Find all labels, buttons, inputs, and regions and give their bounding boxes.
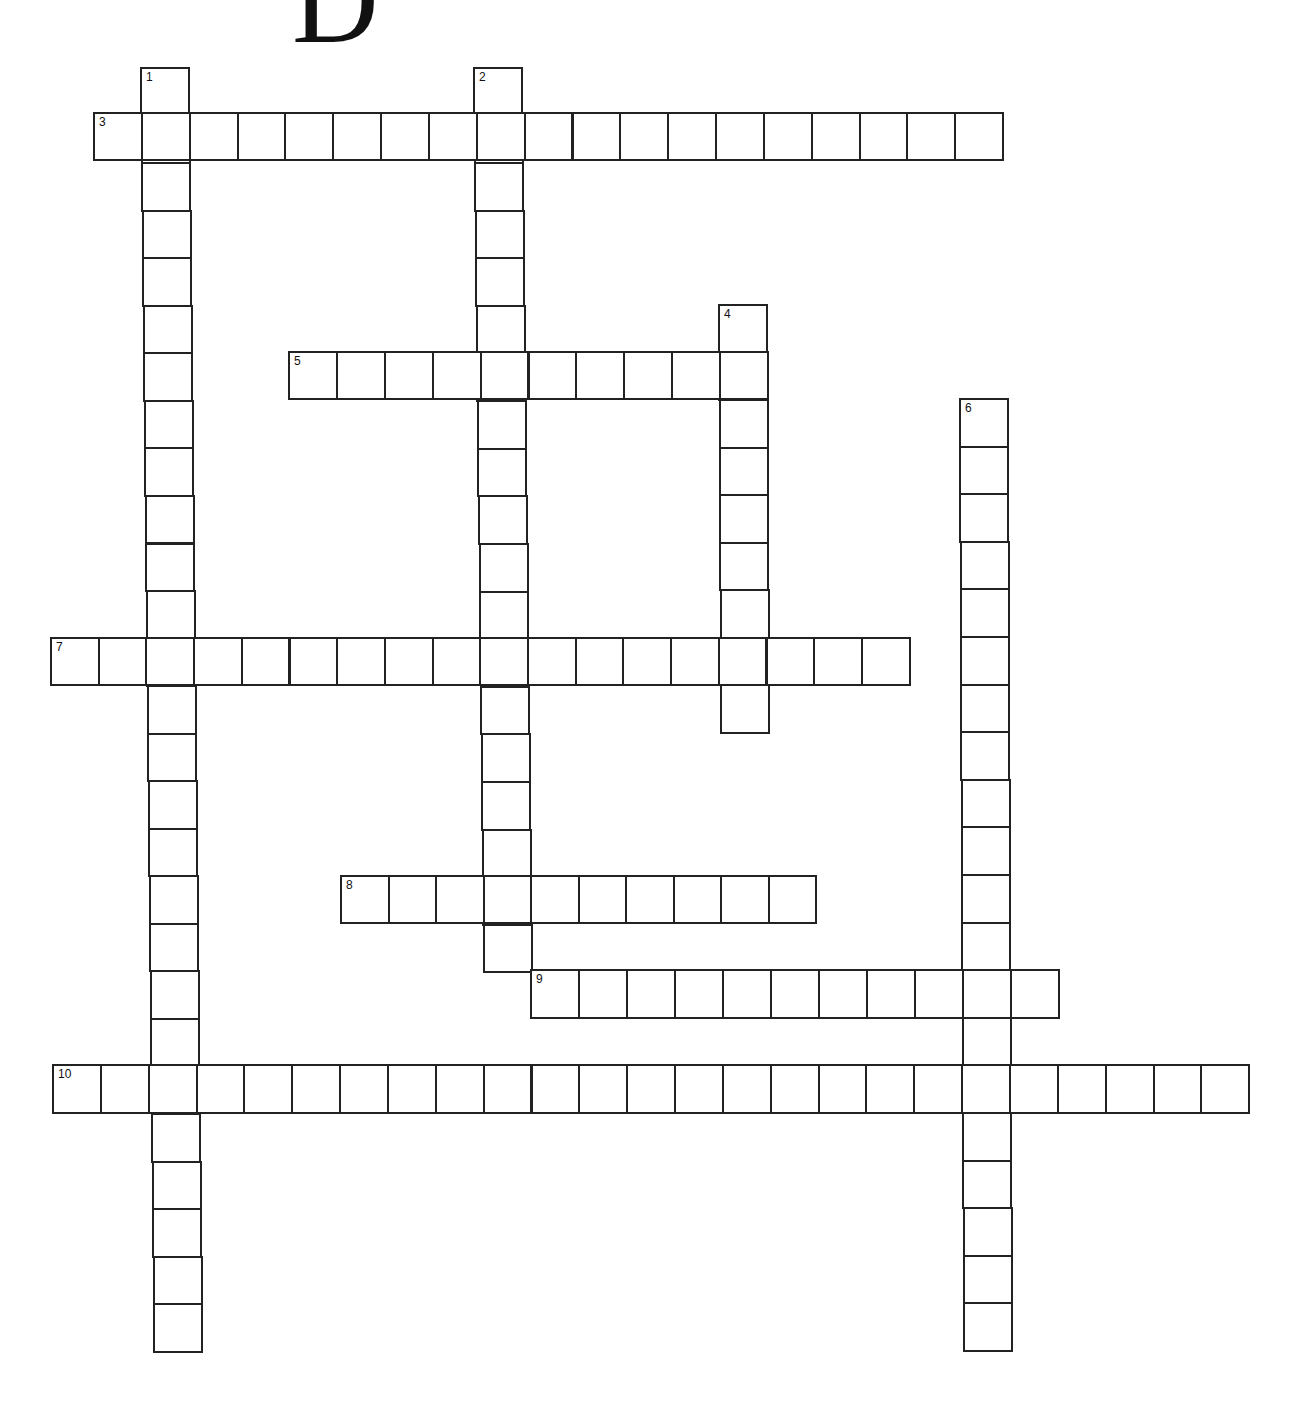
crossword-cell[interactable]	[1200, 1064, 1250, 1114]
crossword-cell[interactable]	[100, 1064, 150, 1114]
crossword-cell[interactable]	[481, 733, 531, 783]
crossword-cell[interactable]	[914, 969, 964, 1019]
crossword-cell[interactable]: 9	[530, 969, 580, 1019]
crossword-cell[interactable]: 1	[140, 67, 190, 117]
crossword-cell[interactable]	[719, 351, 769, 400]
crossword-cell[interactable]	[768, 875, 818, 924]
crossword-cell[interactable]	[148, 828, 198, 878]
crossword-cell[interactable]	[720, 875, 770, 924]
crossword-cell[interactable]	[524, 112, 574, 161]
crossword-cell[interactable]	[959, 446, 1009, 496]
crossword-cell[interactable]	[963, 1207, 1013, 1257]
crossword-cell[interactable]	[380, 112, 430, 161]
crossword-cell[interactable]	[673, 875, 723, 924]
crossword-cell[interactable]	[626, 969, 676, 1019]
crossword-cell[interactable]	[477, 400, 527, 450]
crossword-cell[interactable]	[770, 969, 820, 1019]
crossword-cell[interactable]	[961, 1064, 1011, 1114]
crossword-cell[interactable]	[142, 257, 192, 307]
crossword-cell[interactable]	[479, 543, 529, 593]
crossword-cell[interactable]	[144, 447, 194, 497]
crossword-cell[interactable]	[150, 970, 200, 1020]
crossword-cell[interactable]	[479, 637, 529, 686]
crossword-cell[interactable]	[859, 112, 909, 161]
crossword-cell[interactable]	[475, 210, 525, 260]
crossword-cell[interactable]	[961, 779, 1011, 829]
crossword-cell[interactable]	[619, 112, 669, 161]
crossword-cell[interactable]	[962, 1112, 1012, 1162]
crossword-cell[interactable]	[478, 495, 528, 545]
crossword-cell[interactable]	[193, 637, 243, 686]
crossword-cell[interactable]	[960, 636, 1010, 686]
crossword-cell[interactable]	[483, 875, 533, 924]
crossword-cell[interactable]	[575, 351, 625, 400]
crossword-cell[interactable]: 8	[340, 875, 390, 924]
crossword-cell[interactable]	[960, 588, 1010, 638]
crossword-cell[interactable]	[428, 112, 478, 161]
crossword-cell[interactable]	[143, 352, 193, 402]
crossword-cell[interactable]: 6	[959, 398, 1009, 448]
crossword-cell[interactable]	[141, 162, 191, 212]
crossword-cell[interactable]	[763, 112, 813, 161]
crossword-cell[interactable]	[960, 684, 1010, 734]
crossword-cell[interactable]	[432, 351, 482, 400]
crossword-cell[interactable]	[435, 875, 485, 924]
crossword-cell[interactable]	[142, 210, 192, 260]
crossword-cell[interactable]	[98, 637, 148, 686]
crossword-cell[interactable]	[719, 399, 769, 449]
crossword-cell[interactable]	[150, 1018, 200, 1068]
crossword-cell[interactable]	[722, 1064, 772, 1114]
crossword-cell[interactable]	[719, 542, 769, 592]
crossword-cell[interactable]	[146, 590, 196, 640]
crossword-cell[interactable]	[960, 731, 1010, 781]
crossword-cell[interactable]	[153, 1303, 203, 1353]
crossword-cell[interactable]	[719, 447, 769, 497]
crossword-cell[interactable]	[1010, 969, 1060, 1019]
crossword-cell[interactable]	[477, 448, 527, 498]
crossword-cell[interactable]	[960, 541, 1010, 591]
crossword-cell[interactable]	[474, 162, 524, 212]
crossword-cell[interactable]	[719, 494, 769, 544]
crossword-cell[interactable]	[1009, 1064, 1059, 1114]
crossword-cell[interactable]	[149, 875, 199, 925]
crossword-cell[interactable]	[1105, 1064, 1155, 1114]
crossword-cell[interactable]	[483, 924, 533, 974]
crossword-cell[interactable]	[435, 1064, 485, 1114]
crossword-cell[interactable]	[813, 637, 863, 686]
crossword-cell[interactable]	[622, 637, 672, 686]
crossword-cell[interactable]	[961, 874, 1011, 924]
crossword-cell[interactable]	[196, 1064, 246, 1114]
crossword-cell[interactable]: 10	[52, 1064, 102, 1114]
crossword-cell[interactable]	[718, 637, 768, 686]
crossword-cell[interactable]	[961, 826, 1011, 876]
crossword-cell[interactable]	[289, 637, 339, 686]
crossword-cell[interactable]	[144, 400, 194, 450]
crossword-cell[interactable]	[962, 1160, 1012, 1210]
crossword-cell[interactable]	[770, 1064, 820, 1114]
crossword-cell[interactable]	[531, 1064, 581, 1114]
crossword-cell[interactable]	[476, 112, 526, 161]
crossword-cell[interactable]	[811, 112, 861, 161]
crossword-cell[interactable]	[481, 781, 531, 831]
crossword-cell[interactable]	[483, 1064, 533, 1114]
crossword-cell[interactable]	[241, 637, 291, 686]
crossword-cell[interactable]	[147, 733, 197, 783]
crossword-cell[interactable]	[476, 305, 526, 355]
crossword-cell[interactable]	[623, 351, 673, 400]
crossword-cell[interactable]: 7	[50, 637, 100, 686]
crossword-cell[interactable]	[243, 1064, 293, 1114]
crossword-cell[interactable]	[432, 637, 482, 686]
crossword-cell[interactable]	[667, 112, 717, 161]
crossword-cell[interactable]	[1153, 1064, 1203, 1114]
crossword-cell[interactable]	[670, 637, 720, 686]
crossword-cell[interactable]	[572, 112, 622, 161]
crossword-cell[interactable]	[528, 351, 578, 400]
crossword-cell[interactable]: 2	[473, 67, 523, 117]
crossword-cell[interactable]	[913, 1064, 963, 1114]
crossword-cell[interactable]	[336, 637, 386, 686]
crossword-cell[interactable]	[145, 495, 195, 545]
crossword-cell[interactable]	[715, 112, 765, 161]
crossword-cell[interactable]	[480, 686, 530, 736]
crossword-cell[interactable]: 4	[718, 304, 768, 354]
crossword-cell[interactable]	[149, 923, 199, 973]
